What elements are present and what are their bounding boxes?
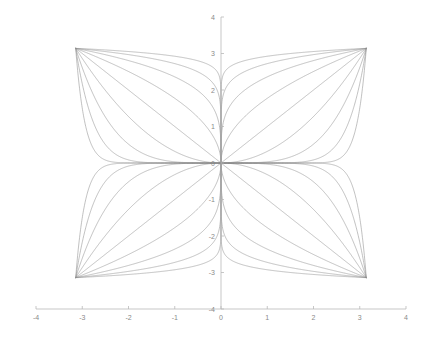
x-tick-label: 3 bbox=[358, 314, 362, 321]
y-tick-label: 1 bbox=[211, 123, 215, 130]
y-tick-label: 2 bbox=[211, 87, 215, 94]
x-tick-label: 2 bbox=[312, 314, 316, 321]
x-tick-label: -4 bbox=[33, 314, 39, 321]
figure-canvas: -4-3-2-101234 -4-3-2-101234 bbox=[0, 0, 434, 341]
x-tick-label: 4 bbox=[404, 314, 408, 321]
y-tick-label: -1 bbox=[209, 196, 215, 203]
plot-area: -4-3-2-101234 -4-3-2-101234 bbox=[0, 0, 434, 341]
x-tick-label: 0 bbox=[219, 314, 223, 321]
y-tick-label: -4 bbox=[209, 306, 215, 313]
y-tick-label: 0 bbox=[211, 160, 215, 167]
y-tick-label: -2 bbox=[209, 233, 215, 240]
x-tick-label: -2 bbox=[125, 314, 131, 321]
y-tick-label: 4 bbox=[211, 14, 215, 21]
y-tick-label: 3 bbox=[211, 50, 215, 57]
x-tick-label: -1 bbox=[172, 314, 178, 321]
x-tick-label-group: -4-3-2-101234 bbox=[33, 314, 408, 321]
x-tick-label: 1 bbox=[265, 314, 269, 321]
y-tick-label: -3 bbox=[209, 269, 215, 276]
x-tick-label: -3 bbox=[79, 314, 85, 321]
